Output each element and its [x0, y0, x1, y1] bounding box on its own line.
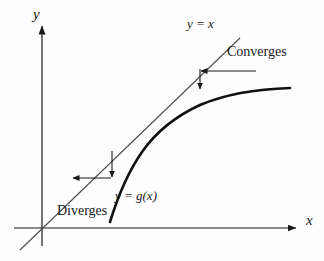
diagram-canvas — [0, 0, 324, 261]
converges-label: Converges — [227, 45, 287, 59]
identity-line-label: y = x — [187, 17, 214, 30]
function-curve-label: y = g(x) — [115, 189, 157, 202]
diverges-label: Diverges — [57, 204, 107, 218]
identity-line-y-equals-x — [20, 38, 240, 250]
x-axis-label: x — [306, 213, 313, 228]
fixed-point-cobweb-figure: y x y = x y = g(x) Converges Diverges — [0, 0, 324, 261]
y-axis-label: y — [33, 7, 40, 22]
